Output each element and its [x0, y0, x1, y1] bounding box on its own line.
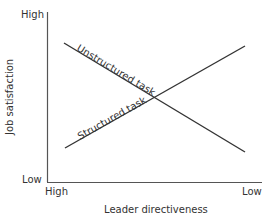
- y-tick-high: High: [21, 9, 44, 20]
- x-axis-title: Leader directiveness: [104, 204, 208, 215]
- chart: Unstructured task Structured task High L…: [0, 0, 271, 220]
- x-tick-high: High: [45, 186, 68, 197]
- y-axis-title: Job satisfaction: [4, 59, 15, 136]
- x-tick-low: Low: [242, 186, 262, 197]
- y-tick-low: Low: [22, 174, 42, 185]
- structured-task-label: Structured task: [76, 94, 149, 142]
- unstructured-task-label: Unstructured task: [75, 42, 158, 98]
